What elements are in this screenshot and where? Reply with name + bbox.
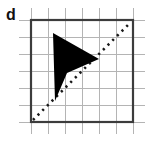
dart-shape <box>53 33 99 101</box>
geometry-canvas <box>0 0 147 142</box>
figure-panel: d <box>0 0 147 142</box>
